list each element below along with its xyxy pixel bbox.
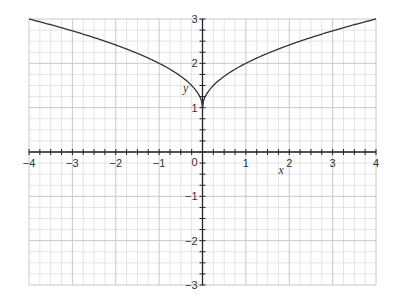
x-tick-label: 3 bbox=[330, 157, 336, 169]
y-tick-label: 1 bbox=[191, 102, 197, 114]
y-tick-label: −2 bbox=[185, 235, 198, 247]
x-tick-label: 2 bbox=[286, 157, 292, 169]
x-tick-label: 1 bbox=[243, 157, 249, 169]
y-tick-label: 2 bbox=[191, 57, 197, 69]
x-tick-label: −4 bbox=[23, 157, 36, 169]
x-axis-label: x bbox=[277, 163, 284, 177]
y-tick-label: −1 bbox=[185, 190, 198, 202]
chart: −4−3−2−11234−3−2−10123 x y bbox=[0, 0, 397, 305]
x-tick-label: −2 bbox=[109, 157, 122, 169]
x-tick-label: −1 bbox=[153, 157, 166, 169]
x-tick-label: 4 bbox=[373, 157, 379, 169]
y-tick-label: 0 bbox=[191, 156, 197, 168]
y-axis-label: y bbox=[182, 81, 189, 95]
x-tick-label: −3 bbox=[66, 157, 79, 169]
y-tick-label: 3 bbox=[191, 13, 197, 25]
y-tick-label: −3 bbox=[185, 279, 198, 291]
